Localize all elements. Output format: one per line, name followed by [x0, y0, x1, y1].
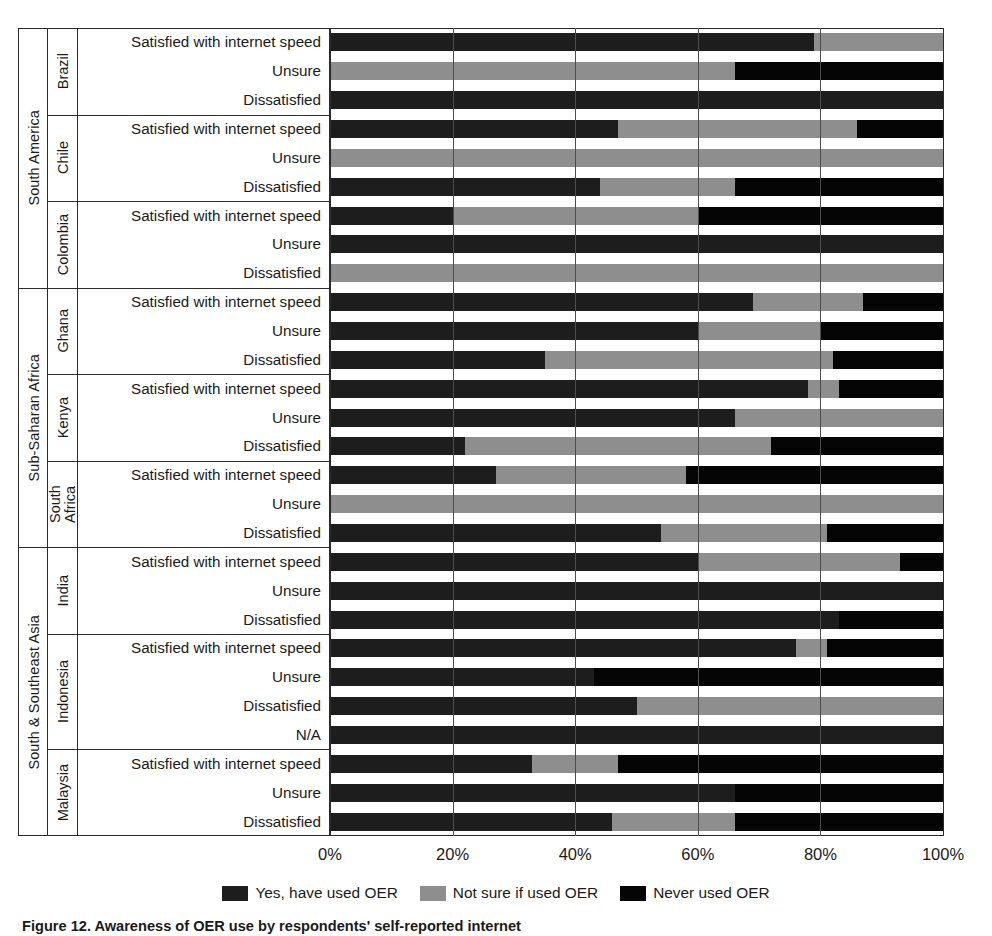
bar-segment-notsure — [496, 466, 686, 484]
country-label-south-africa: South Africa — [48, 461, 78, 548]
stacked-bar — [330, 466, 943, 484]
bar-segment-never — [839, 611, 943, 629]
bar-segment-notsure — [753, 293, 863, 311]
row-label: Dissatisfied — [243, 179, 321, 194]
stacked-bar — [330, 784, 943, 802]
bar-segment-never — [827, 639, 943, 657]
bar-segment-notsure — [612, 813, 735, 831]
stacked-bar — [330, 409, 943, 427]
row-label: Satisfied with internet speed — [131, 121, 321, 136]
x-tick-label: 100% — [922, 845, 964, 864]
stacked-bar — [330, 62, 943, 80]
country-label-text: Colombia — [56, 214, 71, 275]
x-tick-label: 0% — [318, 845, 342, 864]
bar-segment-never — [735, 784, 943, 802]
bar-segment-never — [735, 62, 943, 80]
bar-segment-notsure — [465, 437, 772, 455]
bar-segment-yes — [330, 726, 943, 744]
stacked-bar — [330, 235, 943, 253]
x-tick-label: 80% — [804, 845, 837, 864]
country-label-text: Chile — [56, 141, 71, 174]
legend-item-yes[interactable]: Yes, have used OER — [222, 884, 397, 902]
row-label-column: Satisfied with internet speedUnsureDissa… — [78, 28, 330, 836]
row-label: Satisfied with internet speed — [131, 381, 321, 396]
stacked-bar — [330, 437, 943, 455]
figure-caption: Figure 12. Awareness of OER use by respo… — [22, 918, 972, 934]
bar-segment-yes — [330, 582, 943, 600]
row-label: Unsure — [272, 150, 321, 165]
bar-segment-yes — [330, 322, 698, 340]
stacked-bar — [330, 91, 943, 109]
stacked-bar — [330, 813, 943, 831]
country-label-text: Brazil — [56, 53, 71, 89]
bar-segment-notsure — [330, 264, 943, 282]
chart-figure: South AmericaSub-Saharan AfricaSouth & S… — [0, 0, 992, 936]
stacked-bar — [330, 553, 943, 571]
region-label-text: South America — [26, 110, 42, 206]
x-axis-tick-labels: 0%20%40%60%80%100% — [0, 845, 992, 871]
stacked-bar — [330, 697, 943, 715]
bar-segment-yes — [330, 553, 698, 571]
country-divider — [48, 749, 330, 750]
bar-segment-never — [900, 553, 943, 571]
country-divider — [48, 634, 330, 635]
row-label: Satisfied with internet speed — [131, 467, 321, 482]
region-label-text: Sub-Saharan Africa — [26, 354, 42, 482]
x-tick-label: 40% — [559, 845, 592, 864]
bar-segment-yes — [330, 33, 814, 51]
region-axis-column: South AmericaSub-Saharan AfricaSouth & S… — [18, 28, 48, 836]
stacked-bar — [330, 293, 943, 311]
row-label: Satisfied with internet speed — [131, 640, 321, 655]
row-label: Dissatisfied — [243, 525, 321, 540]
legend-item-never[interactable]: Never used OER — [620, 884, 769, 902]
bar-segment-yes — [330, 755, 532, 773]
legend-item-notsure[interactable]: Not sure if used OER — [420, 884, 598, 902]
bar-segment-yes — [330, 235, 943, 253]
gridline-60 — [698, 28, 699, 836]
bar-segment-notsure — [330, 62, 735, 80]
bar-segment-notsure — [808, 380, 839, 398]
bar-segment-yes — [330, 668, 594, 686]
bar-segment-never — [857, 120, 943, 138]
stacked-bar — [330, 524, 943, 542]
bar-segment-notsure — [545, 351, 833, 369]
chart-legend: Yes, have used OERNot sure if used OERNe… — [0, 880, 992, 906]
country-divider — [48, 288, 330, 289]
row-label: Dissatisfied — [243, 92, 321, 107]
legend-swatch-never — [620, 886, 646, 901]
stacked-bar — [330, 639, 943, 657]
region-label-south-america: South America — [19, 28, 49, 288]
bar-segment-yes — [330, 207, 453, 225]
bar-segment-yes — [330, 380, 808, 398]
country-label-colombia: Colombia — [48, 201, 78, 288]
stacked-bar — [330, 178, 943, 196]
country-divider — [48, 374, 330, 375]
row-label: Unsure — [272, 785, 321, 800]
gridline-40 — [575, 28, 576, 836]
country-divider — [48, 461, 330, 462]
legend-label: Yes, have used OER — [255, 884, 397, 902]
country-label-text: Indonesia — [56, 660, 71, 723]
row-label: Unsure — [272, 323, 321, 338]
bar-segment-yes — [330, 639, 796, 657]
row-label: Dissatisfied — [243, 698, 321, 713]
stacked-bar — [330, 668, 943, 686]
country-label-text: Malaysia — [56, 764, 71, 821]
country-axis-column: BrazilChileColombiaGhanaKenyaSouth Afric… — [48, 28, 78, 836]
legend-swatch-yes — [222, 886, 248, 901]
bar-segment-notsure — [814, 33, 943, 51]
stacked-bar — [330, 207, 943, 225]
bar-segment-notsure — [796, 639, 827, 657]
bar-segment-notsure — [600, 178, 735, 196]
bar-segment-never — [771, 437, 943, 455]
bar-segment-yes — [330, 293, 753, 311]
bar-segment-yes — [330, 524, 661, 542]
gridline-100 — [943, 28, 944, 836]
bar-segment-never — [618, 755, 943, 773]
stacked-bar — [330, 611, 943, 629]
row-label: Dissatisfied — [243, 265, 321, 280]
row-label: Satisfied with internet speed — [131, 208, 321, 223]
bar-segment-yes — [330, 784, 735, 802]
bar-segment-never — [820, 322, 943, 340]
bar-segment-yes — [330, 813, 612, 831]
